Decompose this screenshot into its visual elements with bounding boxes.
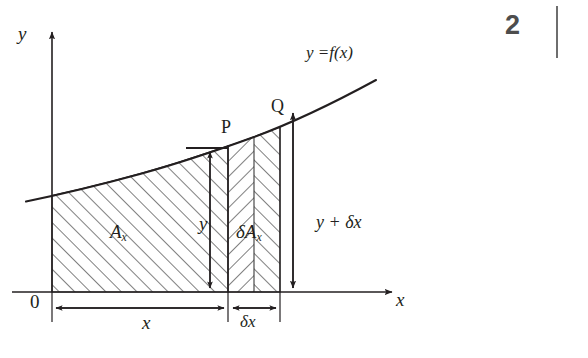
page-margin-rule xyxy=(556,6,558,58)
y-axis-label: y xyxy=(18,24,26,43)
point-q-label: Q xyxy=(271,97,284,115)
integration-area-diagram xyxy=(0,0,588,358)
height-y-label: y xyxy=(199,214,207,233)
area-delta-ax-label: δAx xyxy=(236,222,262,244)
dimension-x-label: x xyxy=(142,313,150,332)
page-number: 2 xyxy=(505,12,520,39)
area-delta-ax-subscript: x xyxy=(256,231,261,244)
dimension-dx-label: δx xyxy=(240,313,255,330)
curve-equation-label: y =f(x) xyxy=(306,44,353,61)
origin-label: 0 xyxy=(30,292,40,311)
height-y-plus-dx-label: y + δx xyxy=(316,213,362,231)
area-ax-label: Ax xyxy=(110,222,127,244)
area-ax-subscript: x xyxy=(122,231,127,244)
area-ax-symbol: A xyxy=(110,221,122,242)
area-delta-ax-region xyxy=(228,127,280,292)
x-axis-label: x xyxy=(396,290,404,309)
figure-container: y x y =f(x) P Q Ax δAx y y + δx 0 x δx 2 xyxy=(0,0,588,358)
area-delta-ax-symbol: δA xyxy=(236,221,256,242)
point-p-label: P xyxy=(221,118,231,136)
